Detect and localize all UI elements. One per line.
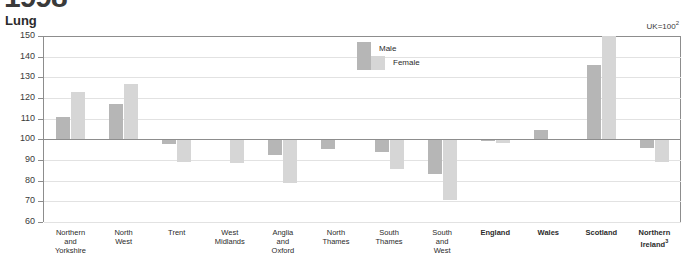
x-axis-label-6: SouthThames [363, 228, 416, 246]
x-axis-label-line: Northern [628, 228, 681, 237]
y-axis-label-60: 60 [0, 217, 35, 226]
x-axis-label-line: England [469, 228, 522, 237]
y-axis-label-140: 140 [0, 52, 35, 61]
x-axis-label-line: and [44, 237, 97, 246]
x-axis-label-10: Scotland [575, 228, 628, 237]
bar-female-3 [230, 139, 244, 163]
y-axis-label-110: 110 [0, 114, 35, 123]
uk-baseline-note: UK=1002 [647, 20, 679, 31]
x-axis-label-line: Wales [522, 228, 575, 237]
bar-male-4 [268, 139, 282, 155]
x-axis-label-line: North [97, 228, 150, 237]
baseline-line [44, 139, 681, 140]
bar-male-5 [321, 139, 335, 148]
uk-baseline-note-superscript: 2 [676, 20, 679, 26]
x-axis-label-line: West [203, 228, 256, 237]
x-axis-label-line: Thames [363, 237, 416, 246]
y-tick-90 [38, 160, 43, 161]
x-axis-label-2: Trent [150, 228, 203, 237]
x-axis-label-line: South [363, 228, 416, 237]
bar-female-4 [283, 139, 297, 182]
legend-swatch-male [357, 42, 371, 70]
legend-label-female: Female [393, 58, 420, 67]
x-axis-label-line: Midlands [203, 237, 256, 246]
chart-title: Lung [5, 13, 37, 28]
x-axis-label-5: NorthThames [309, 228, 362, 246]
y-tick-100 [38, 139, 43, 140]
x-axis-label-line: West [416, 246, 469, 255]
bar-female-0 [71, 92, 85, 140]
x-axis-label-4: AngliaandOxford [256, 228, 309, 255]
x-axis-label-line: South [416, 228, 469, 237]
x-axis-label-line: Scotland [575, 228, 628, 237]
x-axis-label-9: Wales [522, 228, 575, 237]
y-tick-110 [38, 119, 43, 120]
bar-female-6 [390, 139, 404, 169]
legend-label-male: Male [379, 44, 396, 53]
bar-female-7 [443, 139, 457, 200]
x-axis-label-line: Yorkshire [44, 246, 97, 255]
y-axis-label-120: 120 [0, 93, 35, 102]
x-axis-label-7: SouthandWest [416, 228, 469, 255]
y-tick-80 [38, 181, 43, 182]
y-axis-label-150: 150 [0, 31, 35, 40]
x-axis-label-8: England [469, 228, 522, 237]
x-axis-label-3: WestMidlands [203, 228, 256, 246]
uk-baseline-note-text: UK=100 [647, 22, 676, 31]
bar-male-7 [428, 139, 442, 174]
y-tick-150 [38, 36, 43, 37]
x-axis-label-line: North [309, 228, 362, 237]
y-axis-label-70: 70 [0, 196, 35, 205]
legend: Male Female [357, 42, 467, 72]
gridline-120 [44, 98, 681, 99]
gridline-60 [44, 222, 681, 223]
x-axis-label-line: Ireland3 [628, 237, 681, 249]
bar-male-11 [640, 139, 654, 147]
plot-frame-right [680, 36, 681, 222]
y-tick-70 [38, 201, 43, 202]
x-axis-label-line: Northern [44, 228, 97, 237]
y-axis-label-130: 130 [0, 72, 35, 81]
gridline-90 [44, 160, 681, 161]
gridline-110 [44, 119, 681, 120]
x-axis-label-line: Trent [150, 228, 203, 237]
plot-frame-top [44, 36, 681, 37]
y-tick-120 [38, 98, 43, 99]
x-axis-label-1: NorthWest [97, 228, 150, 246]
gridline-80 [44, 181, 681, 182]
x-axis-label-line: West [97, 237, 150, 246]
bar-female-11 [655, 139, 669, 162]
bar-male-10 [587, 65, 601, 139]
y-axis-label-100: 100 [0, 134, 35, 143]
x-axis-label-line: Oxford [256, 246, 309, 255]
lung-cancer-regional-bar-chart: 1998 Lung UK=1002 6070809010011012013014… [0, 0, 686, 266]
bar-female-2 [177, 139, 191, 162]
x-axis-label-line: and [416, 237, 469, 246]
x-axis-label-11: NorthernIreland3 [628, 228, 681, 249]
bar-male-6 [375, 139, 389, 151]
bar-male-9 [534, 130, 548, 139]
bar-female-1 [124, 84, 138, 140]
bar-male-1 [109, 104, 123, 139]
cropped-year-heading: 1998 [0, 0, 686, 12]
x-axis-label-line: Thames [309, 237, 362, 246]
y-axis-label-90: 90 [0, 155, 35, 164]
legend-swatch-female [371, 56, 385, 70]
x-axis-label-0: NorthernandYorkshire [44, 228, 97, 255]
y-tick-60 [38, 222, 43, 223]
x-axis-label-line: Anglia [256, 228, 309, 237]
y-tick-140 [38, 57, 43, 58]
cropped-year-heading-text: 1998 [4, 0, 67, 12]
bar-female-10 [602, 36, 616, 139]
y-axis-label-80: 80 [0, 176, 35, 185]
x-axis-label-line: and [256, 237, 309, 246]
y-tick-130 [38, 77, 43, 78]
gridline-70 [44, 201, 681, 202]
bar-male-0 [56, 117, 70, 140]
x-axis-label-superscript: 3 [665, 238, 668, 244]
gridline-130 [44, 77, 681, 78]
